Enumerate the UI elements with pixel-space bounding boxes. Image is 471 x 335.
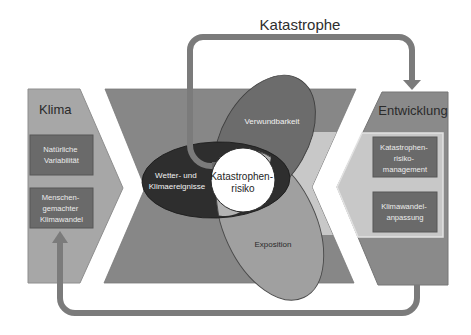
diagram-svg: Katastrophe Klima Entwicklung Natürliche…	[0, 0, 471, 335]
diagram-title: Katastrophe	[260, 16, 341, 33]
exposure-label: Exposition	[255, 240, 292, 249]
vulnerability-label: Verwundbarkeit	[244, 117, 300, 126]
box-natural-variability	[30, 135, 93, 175]
box-anthropogenic-climate-change-label: Menschen- gemachter Klimawandel	[40, 193, 83, 224]
klima-panel	[28, 89, 123, 283]
entwicklung-panel-title: Entwicklung	[378, 103, 447, 118]
box-climate-adaptation	[373, 192, 437, 232]
klima-panel-title: Klima	[39, 102, 72, 117]
disaster-risk-diagram: Katastrophe Klima Entwicklung Natürliche…	[0, 0, 471, 335]
katastrophe-arrowhead-icon	[403, 80, 421, 90]
